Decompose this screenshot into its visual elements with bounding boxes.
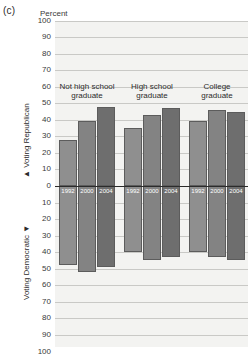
plot-inner: Not high school graduate199220002004High… (55, 21, 248, 347)
bar-republican (189, 121, 207, 186)
bar-year-label: 2004 (97, 188, 115, 195)
y-axis-tick-label: 50 (17, 265, 51, 273)
y-axis-tick-label: 20 (17, 215, 51, 223)
gridline (55, 70, 248, 71)
y-axis-tick-label: 100 (17, 17, 51, 25)
y-axis-tick-label: 40 (17, 248, 51, 256)
y-axis-tick-label: 60 (17, 83, 51, 91)
y-axis-tick-label: 70 (17, 298, 51, 306)
bar-democratic (208, 186, 226, 257)
bar-republican (227, 112, 245, 186)
y-axis-tick-label: 30 (17, 232, 51, 240)
bar-year-label: 2000 (143, 188, 161, 195)
bar-democratic (124, 186, 142, 252)
gridline (55, 103, 248, 104)
y-axis-tick-label: 80 (17, 314, 51, 322)
y-axis-tick-label: 10 (17, 165, 51, 173)
y-axis-tick-label: 20 (17, 149, 51, 157)
bar-year-label: 2000 (78, 188, 96, 195)
gridline (55, 318, 248, 319)
bar-year-label: 2004 (162, 188, 180, 195)
bar-democratic (162, 186, 180, 257)
bar-republican (143, 115, 161, 186)
zero-axis-line (55, 186, 248, 187)
y-axis-tick-label: 100 (17, 348, 51, 354)
bar-democratic (143, 186, 161, 260)
bar-democratic (97, 186, 115, 267)
bar-democratic (227, 186, 245, 260)
bar-democratic (189, 186, 207, 252)
y-axis-tick-label: 70 (17, 66, 51, 74)
y-axis-tick-label: 80 (17, 50, 51, 58)
bar-year-label: 1992 (189, 188, 207, 195)
bar-year-label: 1992 (124, 188, 142, 195)
bar-republican (59, 140, 77, 186)
bar-democratic (78, 186, 96, 272)
bar-republican (78, 121, 96, 186)
gridline (55, 302, 248, 303)
y-axis-tick-label: 90 (17, 33, 51, 41)
bar-democratic (59, 186, 77, 265)
y-axis-tick-label: 10 (17, 199, 51, 207)
plot-area: Not high school graduate199220002004High… (55, 21, 248, 347)
gridline (55, 54, 248, 55)
gridline (55, 21, 248, 22)
bar-republican (208, 110, 226, 186)
group-label: High school graduate (118, 82, 186, 100)
bar-year-label: 1992 (59, 188, 77, 195)
y-axis-tick-label: 0 (17, 182, 51, 190)
y-axis-tick-label: 90 (17, 331, 51, 339)
y-axis-tick-label: 40 (17, 116, 51, 124)
panel-label: (c) (3, 5, 15, 16)
y-axis-tick-label: 60 (17, 281, 51, 289)
bar-year-label: 2000 (208, 188, 226, 195)
gridline (55, 285, 248, 286)
bar-year-label: 2004 (227, 188, 245, 195)
gridline (55, 335, 248, 336)
figure-panel: (c) Percent ▲ Voting Republican Voting D… (0, 0, 252, 354)
group-label: College graduate (183, 82, 248, 100)
y-axis-tick-label: 50 (17, 99, 51, 107)
bar-republican (162, 108, 180, 186)
group-label: Not high school graduate (55, 82, 121, 100)
bar-republican (124, 128, 142, 186)
bar-republican (97, 107, 115, 186)
y-axis-tick-label: 30 (17, 132, 51, 140)
gridline (55, 37, 248, 38)
